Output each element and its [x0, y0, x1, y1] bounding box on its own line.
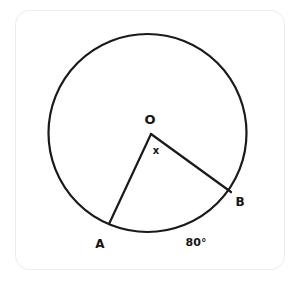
circle-geometry-diagram: O x A B 80° — [0, 0, 301, 283]
radius-OA — [109, 134, 151, 224]
arc-measure-label: 80° — [186, 236, 207, 249]
point-label-B: B — [235, 195, 244, 209]
radius-OB — [151, 134, 231, 192]
unknown-angle-label-x: x — [153, 145, 160, 156]
center-label-O: O — [144, 112, 155, 127]
circle-outline — [49, 34, 247, 232]
point-label-A: A — [95, 237, 105, 251]
